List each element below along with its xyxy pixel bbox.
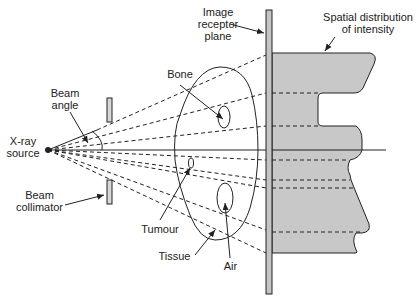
label-line: angle bbox=[45, 99, 85, 111]
tumour-ellipse bbox=[189, 158, 194, 168]
label-image-receptor-plane: Image receptor plane bbox=[188, 6, 248, 42]
label-line: X-ray bbox=[2, 135, 44, 147]
label-line: Image bbox=[188, 6, 248, 18]
label-line: collimator bbox=[12, 201, 67, 213]
label-line: plane bbox=[188, 30, 248, 42]
label-line: Beam bbox=[45, 87, 85, 99]
label-tumour: Tumour bbox=[135, 223, 185, 235]
label-line: Tumour bbox=[135, 223, 185, 235]
label-line: receptor bbox=[188, 18, 248, 30]
tissue-outline bbox=[175, 67, 258, 240]
image-receptor-plate bbox=[266, 10, 272, 294]
collimator-bottom bbox=[107, 180, 112, 204]
label-xray-source: X-ray source bbox=[2, 135, 44, 159]
label-line: source bbox=[2, 147, 44, 159]
label-beam-angle: Beam angle bbox=[45, 87, 85, 111]
label-beam-collimator: Beam collimator bbox=[12, 189, 67, 213]
intensity-profile bbox=[272, 53, 375, 253]
xray-diagram: Image receptor plane Spatial distributio… bbox=[0, 0, 418, 302]
label-line: Bone bbox=[160, 68, 200, 80]
collimator-top bbox=[107, 98, 112, 122]
label-line: Spatial distribution bbox=[318, 11, 418, 23]
label-spatial-distribution: Spatial distribution of intensity bbox=[318, 11, 418, 35]
label-air: Air bbox=[218, 260, 243, 272]
diagram-canvas bbox=[0, 0, 418, 302]
label-tissue: Tissue bbox=[152, 250, 197, 262]
label-bone: Bone bbox=[160, 68, 200, 80]
xray-source-dot bbox=[45, 147, 51, 153]
label-line: Air bbox=[218, 260, 243, 272]
label-line: Beam bbox=[12, 189, 67, 201]
label-line: Tissue bbox=[152, 250, 197, 262]
beam-angle-arc bbox=[92, 131, 102, 150]
label-line: of intensity bbox=[318, 23, 418, 35]
